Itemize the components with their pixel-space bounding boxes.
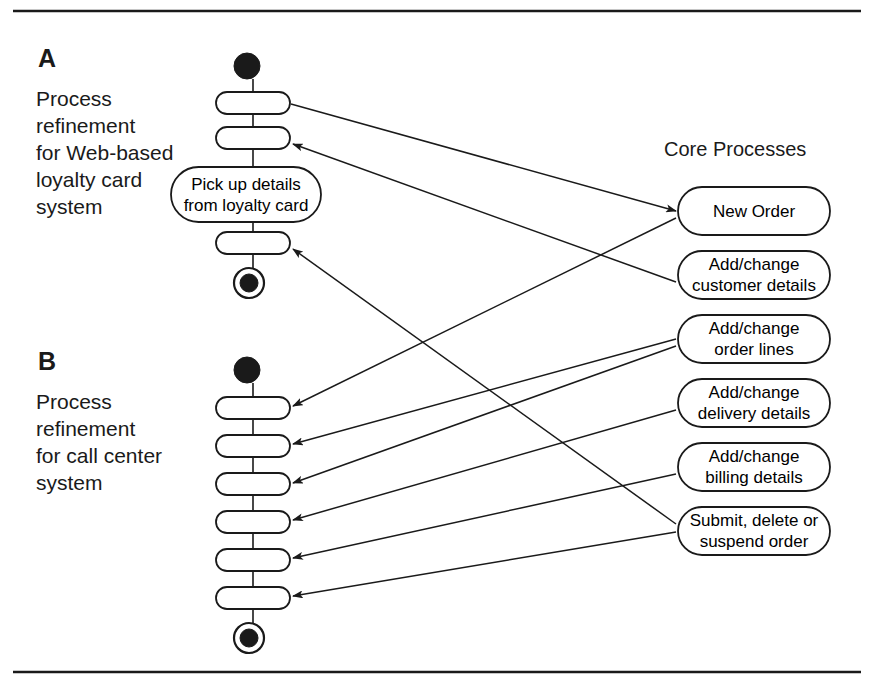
activity-node-pick-up-details[interactable] — [171, 167, 321, 222]
core-process-new-order[interactable] — [678, 187, 830, 235]
activity-bar[interactable] — [216, 127, 290, 149]
activity-bar[interactable] — [216, 473, 290, 495]
activity-bar[interactable] — [216, 549, 290, 571]
conn-new-order-to-b1 — [293, 218, 676, 406]
section-letter-b: B — [38, 347, 56, 376]
start-node — [234, 357, 260, 383]
end-node-core — [240, 274, 258, 292]
core-process-submit-delete-suspend-order[interactable] — [678, 507, 830, 555]
activity-bar[interactable] — [216, 435, 290, 457]
conn-customer-details-to-a2 — [293, 144, 676, 282]
section-description-b: Process refinement for call center syste… — [36, 388, 162, 496]
core-processes-header: Core Processes — [664, 138, 806, 161]
end-node-core — [240, 629, 258, 647]
core-process-add-change-billing-details[interactable] — [678, 443, 830, 491]
connection-lines — [291, 104, 676, 596]
figure-canvas: A Process refinement for Web-based loyal… — [0, 0, 877, 691]
conn-billing-details-to-b5 — [293, 474, 676, 558]
core-process-add-change-delivery-details[interactable] — [678, 379, 830, 427]
activity-bar[interactable] — [216, 511, 290, 533]
conn-order-lines-to-b3 — [293, 346, 676, 483]
core-process-add-change-order-lines[interactable] — [678, 315, 830, 363]
section-description-a: Process refinement for Web-based loyalty… — [36, 85, 173, 220]
section-letter-a: A — [38, 44, 56, 73]
activity-bar[interactable] — [216, 587, 290, 609]
conn-submit-to-a3 — [293, 249, 676, 524]
activity-bar[interactable] — [216, 397, 290, 419]
conn-submit-to-b6 — [293, 532, 676, 596]
conn-order-lines-to-b2 — [293, 339, 676, 444]
activity-bar[interactable] — [216, 232, 290, 254]
conn-delivery-details-to-b4 — [293, 410, 676, 520]
activity-bar[interactable] — [216, 92, 290, 114]
conn-a1-to-new-order — [291, 104, 676, 211]
start-node — [234, 53, 260, 79]
core-process-add-change-customer-details[interactable] — [678, 251, 830, 299]
